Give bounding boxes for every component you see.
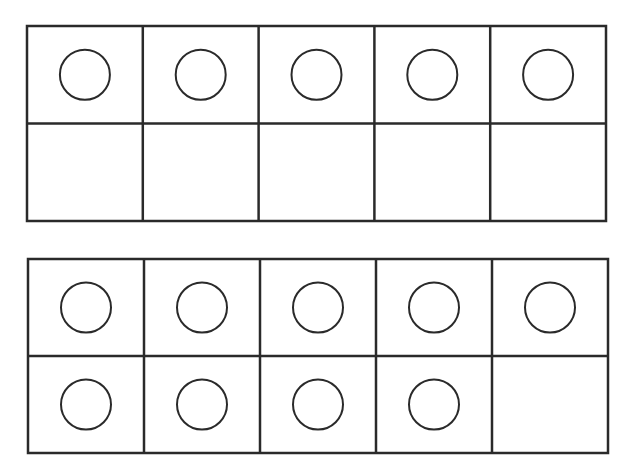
counter-circle-icon <box>61 380 111 430</box>
counter-circle-icon <box>293 283 343 333</box>
ten-frame-2 <box>28 259 608 453</box>
counter-circle-icon <box>177 283 227 333</box>
ten-frame-1 <box>27 26 606 221</box>
ten-frames-diagram <box>0 0 635 472</box>
counter-circle-icon <box>409 380 459 430</box>
counter-circle-icon <box>407 50 457 100</box>
counter-circle-icon <box>293 380 343 430</box>
counter-circle-icon <box>523 50 573 100</box>
counter-circle-icon <box>176 50 226 100</box>
counter-circle-icon <box>177 380 227 430</box>
counter-circle-icon <box>61 283 111 333</box>
counter-circle-icon <box>60 50 110 100</box>
counter-circle-icon <box>409 283 459 333</box>
counter-circle-icon <box>525 283 575 333</box>
counter-circle-icon <box>292 50 342 100</box>
